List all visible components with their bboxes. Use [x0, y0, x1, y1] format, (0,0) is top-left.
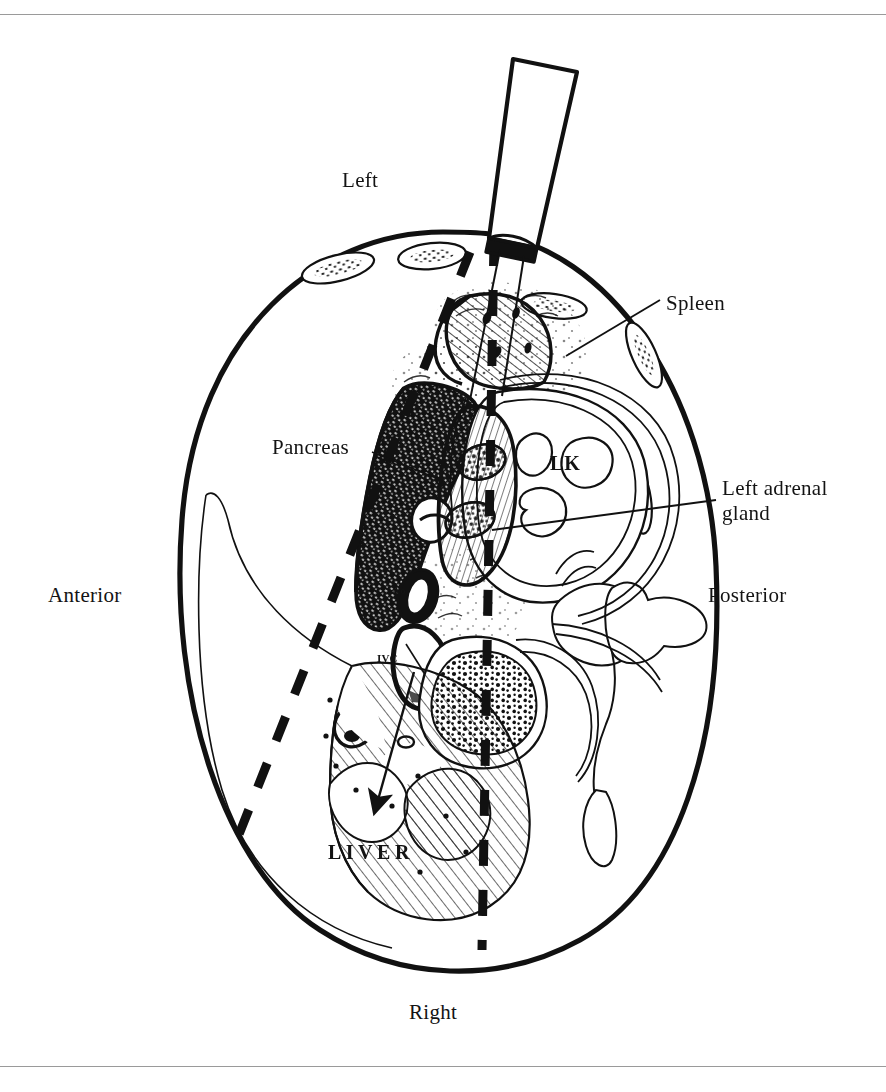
organ-label-spleen: Spleen [666, 291, 725, 316]
organ-label-aorta: Ao [392, 584, 406, 596]
figure-frame: Left Right Anterior Posterior Spleen Pan… [0, 0, 886, 1092]
organ-label-ivc: IVC [377, 652, 398, 664]
orientation-label-anterior: Anterior [48, 583, 122, 608]
organ-label-left-kidney: LK [550, 452, 581, 475]
anatomy-diagram [0, 0, 886, 1092]
orientation-label-posterior: Posterior [708, 583, 787, 608]
organ-label-liver: LIVER [328, 841, 414, 864]
organ-label-left-adrenal-gland: Left adrenal gland [722, 476, 828, 526]
organ-label-pancreas: Pancreas [272, 435, 349, 460]
orientation-label-left: Left [342, 168, 378, 193]
orientation-label-right: Right [409, 1000, 457, 1025]
